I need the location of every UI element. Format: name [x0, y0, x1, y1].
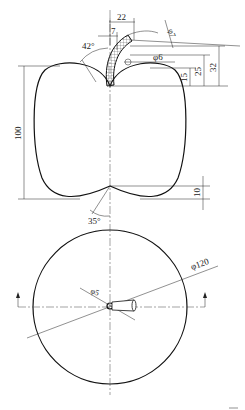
svg-text:25: 25 [193, 67, 203, 77]
dim-height: 100 [13, 66, 80, 199]
svg-text:15: 15 [179, 73, 189, 83]
dim-stem-tip: φ7 [130, 20, 240, 48]
svg-text:φ5: φ5 [89, 286, 100, 297]
front-view: 22 7 42° φ7 φ6 [13, 10, 240, 226]
top-view: φ120 φ5 [16, 224, 218, 395]
svg-text:100: 100 [13, 126, 23, 140]
svg-text:φ6: φ6 [153, 52, 163, 62]
svg-text:42°: 42° [82, 41, 95, 51]
svg-text:10: 10 [192, 188, 202, 198]
svg-text:35°: 35° [88, 216, 101, 226]
dim-angle-35: 35° [88, 186, 110, 226]
svg-text:φ120: φ120 [189, 256, 210, 272]
dim-bottom-offset: 10 [110, 176, 210, 210]
svg-text:7: 7 [111, 26, 116, 36]
svg-text:22: 22 [117, 12, 126, 22]
svg-text:32: 32 [208, 63, 218, 72]
technical-drawing: 22 7 42° φ7 φ6 [0, 0, 245, 410]
stem-top [107, 300, 136, 311]
dim-outer-diameter: φ120 [27, 256, 218, 338]
svg-text:φ7: φ7 [166, 28, 177, 39]
